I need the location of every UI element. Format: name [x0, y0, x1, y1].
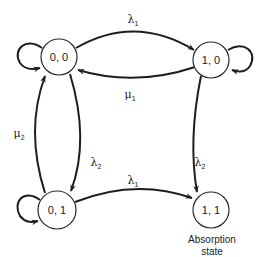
- state-node-0-1: 0, 1: [38, 191, 76, 229]
- edge-label-mu1: μ1: [124, 88, 135, 102]
- edge-10-to-00: [78, 67, 195, 78]
- edge-00-to-01: [70, 74, 80, 191]
- self-loop-10: [228, 46, 252, 71]
- edge-label-lambda1-top: λ1: [128, 13, 139, 27]
- absorption-caption-line1: Absorption: [188, 234, 236, 245]
- state-node-0-0: 0, 0: [41, 39, 77, 75]
- edge-00-to-10: [76, 31, 194, 50]
- edge-01-to-11: [75, 189, 192, 202]
- edge-10-to-11: [193, 76, 201, 192]
- absorption-caption-line2: state: [201, 246, 223, 257]
- edge-label-mu2: μ2: [13, 127, 24, 141]
- state-label: 0, 0: [50, 51, 68, 63]
- self-loop-01: [17, 195, 40, 221]
- state-node-1-1: 1, 1: [193, 192, 229, 228]
- edge-01-to-00: [35, 76, 45, 193]
- self-loop-00: [18, 43, 42, 69]
- state-label: 1, 0: [202, 54, 220, 66]
- state-label: 1, 1: [202, 204, 220, 216]
- edge-label-lambda2-right: λ2: [195, 156, 206, 170]
- edge-label-lambda1-bottom: λ1: [128, 174, 139, 188]
- markov-state-diagram: 0, 0 1, 0 0, 1 1, 1 λ1 μ1 λ2 μ2 λ2 λ1 Ab…: [0, 0, 264, 257]
- state-label: 0, 1: [48, 204, 66, 216]
- state-node-1-0: 1, 0: [193, 42, 229, 78]
- edge-label-lambda2-left: λ2: [91, 156, 102, 170]
